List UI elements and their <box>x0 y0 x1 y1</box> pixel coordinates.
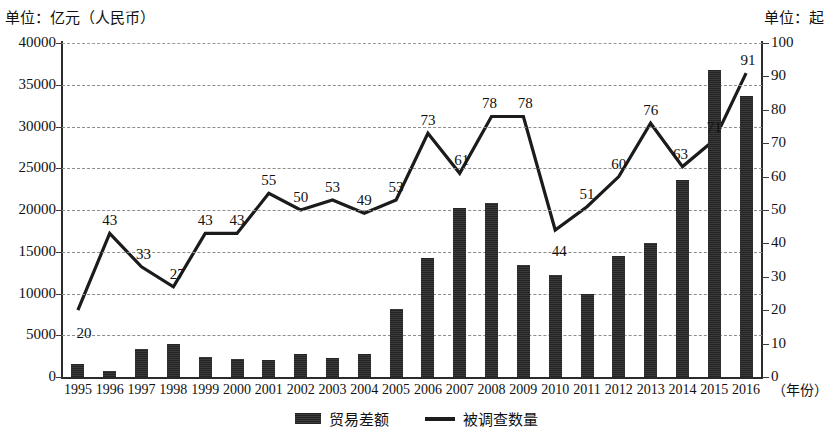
right-axis-tick-mark <box>762 76 769 77</box>
right-axis-tick-label: 70 <box>771 135 811 150</box>
bar <box>581 294 594 378</box>
line-point-label: 63 <box>660 147 700 162</box>
left-axis-tick-label: 10000 <box>0 286 56 301</box>
right-axis-tick-mark <box>762 377 769 378</box>
left-axis-tick-label: 35000 <box>0 77 56 92</box>
bar <box>421 258 434 377</box>
line-point-label: 43 <box>217 213 257 228</box>
line-point-label: 78 <box>470 96 510 111</box>
line-point-label: 43 <box>90 213 130 228</box>
bar <box>676 180 689 377</box>
bar-swatch-icon <box>295 413 321 424</box>
line-point-label: 49 <box>344 193 384 208</box>
bar <box>740 96 753 377</box>
line-point-label: 61 <box>442 153 482 168</box>
bar <box>358 354 371 377</box>
gridline <box>62 43 762 44</box>
line-point-label: 76 <box>631 103 671 118</box>
left-axis-tick-label: 15000 <box>0 244 56 259</box>
legend-item-bar: 贸易差额 <box>295 408 389 429</box>
line-point-label: 55 <box>249 173 289 188</box>
bar <box>167 344 180 377</box>
chart-legend: 贸易差额 被调查数量 <box>0 408 832 429</box>
line-point-label: 60 <box>599 157 639 172</box>
line-point-label: 20 <box>64 326 104 341</box>
right-axis-tick-mark <box>762 243 769 244</box>
x-axis-tick-labels: 1995199619971998199920002001200220032004… <box>0 381 832 403</box>
legend-item-line: 被调查数量 <box>425 408 538 429</box>
left-axis-tick-label: 40000 <box>0 35 56 50</box>
right-axis-tick-label: 30 <box>771 269 811 284</box>
gridline <box>62 210 762 211</box>
right-axis-tick-label: 50 <box>771 202 811 217</box>
chart-canvas: 单位：亿元（人民币） 单位：起 050001000015000200002500… <box>0 0 832 438</box>
right-axis-tick-mark <box>762 143 769 144</box>
line-point-label: 53 <box>376 180 416 195</box>
left-axis-tick-label: 5000 <box>0 327 56 342</box>
gridline <box>62 168 762 169</box>
line-point-label: 73 <box>408 113 448 128</box>
bar <box>294 354 307 377</box>
line-point-label: 27 <box>157 267 197 282</box>
x-axis-title: （年份） <box>772 381 828 399</box>
bar <box>549 275 562 377</box>
bar <box>135 349 148 377</box>
bar <box>199 357 212 377</box>
bar <box>517 265 530 377</box>
line-point-label: 51 <box>567 187 607 202</box>
bar <box>103 371 116 377</box>
right-axis-tick-mark <box>762 43 769 44</box>
x-axis-line <box>61 377 763 379</box>
bar <box>708 70 721 377</box>
plot-area: 2043332743435550534953736178784451607663… <box>62 43 762 377</box>
right-axis-tick-mark <box>762 310 769 311</box>
right-axis-tick-mark <box>762 177 769 178</box>
line-point-label: 71 <box>694 120 734 135</box>
line-point-label: 33 <box>124 247 164 262</box>
bar <box>390 309 403 377</box>
right-axis-tick-mark <box>762 210 769 211</box>
right-axis-tick-label: 100 <box>771 35 811 50</box>
right-axis-tick-label: 60 <box>771 169 811 184</box>
bar <box>326 358 339 377</box>
bar <box>644 243 657 377</box>
left-axis-tick-label: 25000 <box>0 160 56 175</box>
bar <box>453 208 466 378</box>
right-axis-unit-label: 单位：起 <box>764 6 824 27</box>
legend-label-line: 被调查数量 <box>463 408 538 429</box>
bar <box>612 256 625 377</box>
right-axis-tick-mark <box>762 344 769 345</box>
bar <box>231 359 244 377</box>
left-axis-tick-mark <box>56 377 63 378</box>
right-axis-tick-mark <box>762 277 769 278</box>
right-axis-tick-label: 10 <box>771 336 811 351</box>
legend-label-bar: 贸易差额 <box>329 408 389 429</box>
right-axis-tick-mark <box>762 110 769 111</box>
right-axis-tick-label: 40 <box>771 235 811 250</box>
line-point-label: 91 <box>728 53 768 68</box>
left-axis-unit-label: 单位：亿元（人民币） <box>5 6 155 27</box>
right-axis-tick-label: 90 <box>771 68 811 83</box>
line-swatch-icon <box>425 417 455 421</box>
bar <box>485 203 498 378</box>
bar <box>262 360 275 377</box>
bar <box>71 364 84 377</box>
x-axis-tick-label: 2016 <box>724 381 768 399</box>
gridline <box>62 85 762 86</box>
left-axis-tick-label: 30000 <box>0 119 56 134</box>
left-axis-tick-label: 20000 <box>0 202 56 217</box>
line-point-label: 78 <box>505 96 545 111</box>
right-axis-tick-label: 20 <box>771 302 811 317</box>
right-axis-tick-label: 80 <box>771 102 811 117</box>
line-point-label: 44 <box>539 244 579 259</box>
